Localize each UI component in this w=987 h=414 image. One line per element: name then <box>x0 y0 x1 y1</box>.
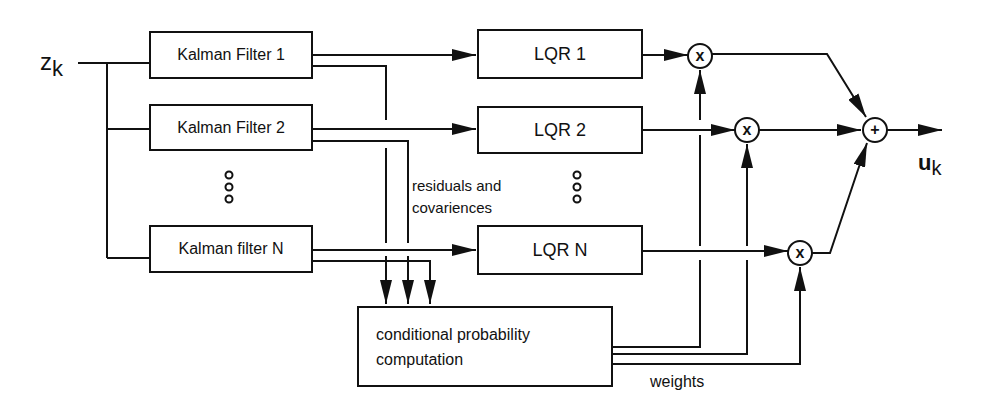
multiplier-n-glyph: x <box>788 241 812 265</box>
lqr-n-label: LQR N <box>478 226 642 274</box>
cpc-label: conditional probability computation <box>376 322 530 372</box>
residuals-label-line1: residuals and <box>412 175 501 197</box>
input-label-sub: k <box>52 56 63 81</box>
output-label-sub: k <box>931 157 941 179</box>
kalman-filter-1-label: Kalman Filter 1 <box>150 32 312 78</box>
kalman-filter-2-label: Kalman Filter 2 <box>150 105 312 150</box>
residuals-label: residuals and covariences <box>412 175 501 219</box>
ellipsis-kf <box>226 172 233 179</box>
input-label-main: z <box>40 48 52 75</box>
multiplier-2-glyph: x <box>735 118 759 142</box>
summer-glyph: + <box>863 118 887 142</box>
output-label: uk <box>918 150 941 180</box>
multiplier-1-glyph: x <box>688 44 712 68</box>
ellipsis-lqr <box>574 172 581 179</box>
output-label-main: u <box>918 150 931 175</box>
input-label: zk <box>40 48 63 82</box>
weights-label: weights <box>650 373 704 391</box>
cpc-label-line2: computation <box>376 347 530 372</box>
lqr-2-label: LQR 2 <box>478 107 642 153</box>
cpc-label-line1: conditional probability <box>376 322 530 347</box>
lqr-1-label: LQR 1 <box>478 30 642 78</box>
residuals-label-line2: covariences <box>412 197 501 219</box>
kalman-filter-n-label: Kalman filter N <box>150 226 312 272</box>
